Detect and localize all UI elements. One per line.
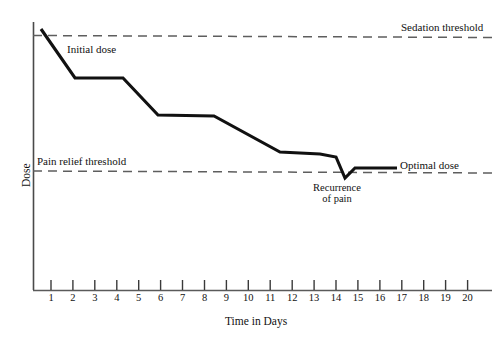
- x-tick-label: 16: [371, 292, 389, 303]
- optimal-dose-label: Optimal dose: [400, 160, 459, 172]
- x-tick-label: 2: [64, 292, 82, 303]
- x-tick-label: 7: [174, 292, 192, 303]
- x-tick-label: 5: [130, 292, 148, 303]
- x-tick-label: 20: [459, 292, 477, 303]
- x-tick-label: 6: [152, 292, 170, 303]
- x-tick-label: 17: [393, 292, 411, 303]
- x-tick-label: 13: [305, 292, 323, 303]
- x-tick-label: 8: [196, 292, 214, 303]
- x-tick-label: 1: [42, 292, 60, 303]
- x-tick-label: 11: [261, 292, 279, 303]
- x-tick-label: 18: [415, 292, 433, 303]
- x-tick-label: 12: [283, 292, 301, 303]
- dose-response-chart: Dose Time in Days Sedation threshold Ini…: [0, 0, 504, 341]
- x-tick-label: 10: [239, 292, 257, 303]
- recurrence-of-pain-label: Recurrence of pain: [294, 182, 380, 204]
- y-axis-title: Dose: [20, 163, 32, 187]
- x-tick-label: 19: [437, 292, 455, 303]
- x-tick-label: 15: [349, 292, 367, 303]
- initial-dose-label: Initial dose: [67, 44, 116, 56]
- pain-relief-threshold-label: Pain relief threshold: [37, 156, 126, 168]
- x-tick-label: 4: [108, 292, 126, 303]
- sedation-threshold-line: [33, 36, 494, 38]
- recurrence-line-2: of pain: [294, 193, 380, 204]
- x-axis-title: Time in Days: [225, 315, 287, 327]
- x-tick-label: 14: [327, 292, 345, 303]
- x-tick-label: 3: [86, 292, 104, 303]
- x-tick-label: 9: [217, 292, 235, 303]
- sedation-threshold-label: Sedation threshold: [401, 22, 483, 34]
- x-axis-ticks: [51, 280, 468, 290]
- recurrence-line-1: Recurrence: [294, 182, 380, 193]
